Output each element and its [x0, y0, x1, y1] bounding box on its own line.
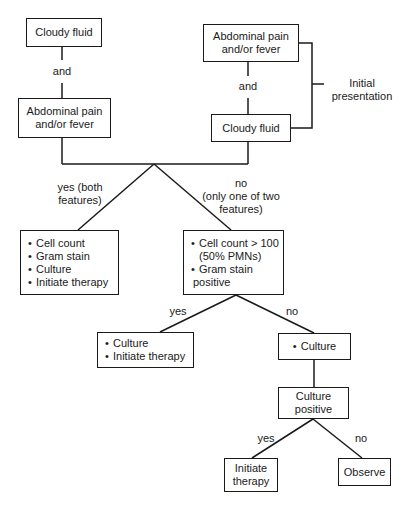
cloudy-fluid-box-left: Cloudy fluid — [26, 18, 102, 47]
list-item-continuation: (50% PMNs) — [191, 250, 279, 263]
observe-box: Observe — [338, 458, 391, 486]
culture-initiate-box: Culture Initiate therapy — [97, 332, 194, 368]
culture-positive-box: Culture positive — [278, 387, 349, 419]
abdominal-pain-line1: Abdominal pain — [213, 30, 289, 43]
initiate-therapy-box: Initiate therapy — [224, 458, 278, 492]
list-item: Gram stain — [28, 250, 108, 263]
list-item: Culture — [105, 337, 185, 350]
list-item-continuation: positive — [191, 276, 279, 289]
no-label: no — [351, 432, 371, 445]
yes-both-features-label: yes (both features) — [52, 181, 108, 207]
yes-actions-box: Cell count Gram stain Culture Initiate t… — [20, 230, 119, 295]
list-item: Cell count > 100 — [191, 237, 279, 250]
yes-label: yes — [166, 305, 190, 318]
and-connector-right: and — [234, 80, 262, 93]
abdominal-pain-line2: and/or fever — [27, 118, 103, 131]
yes-label: yes — [254, 432, 278, 445]
list-item: Culture — [293, 340, 336, 353]
cloudy-fluid-label: Cloudy fluid — [35, 26, 92, 39]
cloudy-fluid-box-right: Cloudy fluid — [211, 114, 291, 142]
list-item: Initiate therapy — [28, 276, 108, 289]
cloudy-fluid-label: Cloudy fluid — [222, 122, 279, 135]
abdominal-pain-line1: Abdominal pain — [27, 105, 103, 118]
culture-box: Culture — [278, 333, 351, 360]
list-item: Gram stain — [191, 263, 279, 276]
list-item: Cell count — [28, 237, 108, 250]
no-label: no — [282, 305, 302, 318]
abdominal-pain-box-left: Abdominal pain and/or fever — [18, 98, 111, 138]
initial-presentation-label: Initial presentation — [322, 77, 402, 103]
list-item: Initiate therapy — [105, 350, 185, 363]
list-item: Culture — [28, 263, 108, 276]
and-connector-left: and — [48, 65, 76, 78]
no-one-feature-label: no (only one of two features) — [198, 177, 284, 216]
criteria-box: Cell count > 100 (50% PMNs) Gram stain p… — [183, 230, 284, 295]
abdominal-pain-box-right: Abdominal pain and/or fever — [203, 24, 299, 62]
abdominal-pain-line2: and/or fever — [213, 43, 289, 56]
